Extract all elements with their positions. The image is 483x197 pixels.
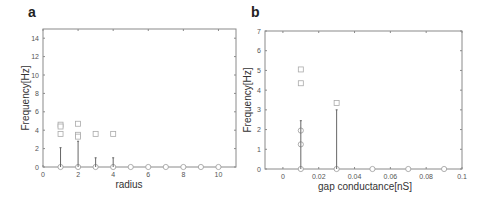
x-tick-label: 0.08 [419, 173, 433, 180]
y-tick-label: 4 [257, 87, 261, 94]
y-tick-label: 0 [257, 166, 261, 173]
chart-gap-conductance: 00.020.040.060.080.101234567gap conducta… [0, 0, 483, 197]
y-tick-label: 5 [257, 67, 261, 74]
y-tick-label: 6 [257, 47, 261, 54]
y-tick-label: 3 [257, 106, 261, 113]
x-tick-label: 0.06 [384, 173, 398, 180]
circle-marker [370, 166, 375, 171]
y-axis-label: Frequency[Hz] [242, 67, 253, 132]
y-tick-label: 2 [257, 126, 261, 133]
square-marker [298, 81, 303, 86]
y-tick-label: 7 [257, 28, 261, 35]
x-tick-label: 0.1 [457, 173, 467, 180]
square-marker [334, 100, 339, 105]
circle-marker [441, 166, 446, 171]
y-tick-label: 1 [257, 146, 261, 153]
x-tick-label: 0.04 [348, 173, 362, 180]
plot-frame [265, 31, 462, 169]
plot-area: 00.020.040.060.080.101234567gap conducta… [242, 28, 467, 193]
x-tick-label: 0 [281, 173, 285, 180]
x-tick-label: 0.02 [312, 173, 326, 180]
square-marker [298, 67, 303, 72]
x-axis-label: gap conductance[nS] [318, 181, 412, 192]
circle-marker [406, 166, 411, 171]
